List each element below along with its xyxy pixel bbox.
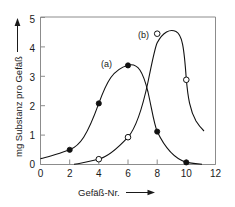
series-a-point-2 <box>96 101 101 106</box>
x-tick-label-6: 6 <box>125 168 131 179</box>
series-b-point-1 <box>96 156 102 162</box>
y-tick-label-0: 0 <box>29 159 35 170</box>
y-tick-label-4: 4 <box>29 43 35 54</box>
x-axis-label: Gefäß-Nr. <box>78 187 120 198</box>
x-tick-label-10: 10 <box>181 168 193 179</box>
y-tick-label-5: 5 <box>29 14 35 25</box>
chart-figure: mg Substanz pro Gefäß 0 1 2 3 4 5 <box>0 0 235 207</box>
series-b-point-2 <box>125 134 131 140</box>
series-b-label: (b) <box>138 30 149 40</box>
chart-svg: mg Substanz pro Gefäß 0 1 2 3 4 5 <box>0 0 235 207</box>
x-tick-label-8: 8 <box>154 168 160 179</box>
x-tick-label-2: 2 <box>67 168 73 179</box>
x-tick-label-0: 0 <box>38 168 44 179</box>
series-b-point-4 <box>184 77 190 83</box>
x-tick-label-4: 4 <box>96 168 102 179</box>
y-tick-label-1: 1 <box>29 130 35 141</box>
series-a-point-4 <box>155 129 160 134</box>
series-a-point-3 <box>125 63 130 68</box>
y-tick-label-2: 2 <box>29 101 35 112</box>
series-a-point-5 <box>184 160 189 165</box>
x-tick-label-12: 12 <box>210 168 222 179</box>
series-a-label: (a) <box>101 59 112 69</box>
series-a-point-1 <box>67 147 72 152</box>
y-axis-label: mg Substanz pro Gefäß <box>13 56 24 157</box>
chart-background <box>0 0 235 207</box>
y-tick-label-3: 3 <box>29 72 35 83</box>
series-b-point-3 <box>154 31 160 37</box>
